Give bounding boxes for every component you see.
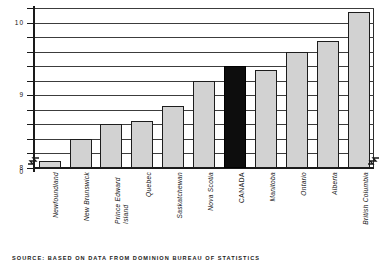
x-axis-category-label: Ontario <box>300 172 307 196</box>
x-axis-category-label: Prince Edward Island <box>114 172 129 224</box>
bar <box>348 12 370 168</box>
x-axis-labels: NewfoundlandNew BrunswickPrince Edward I… <box>34 172 374 252</box>
x-axis-category-label: Nova Scotia <box>207 172 214 211</box>
axis-break-left-icon <box>26 155 42 167</box>
x-axis-category-label: CANADA <box>238 172 245 203</box>
bar <box>286 52 308 168</box>
source-note: SOURCE: BASED ON DATA FROM DOMINION BURE… <box>12 255 260 261</box>
x-axis-category-label: Quebec <box>145 172 152 197</box>
bar <box>100 124 122 168</box>
x-axis-category-label: Manitoba <box>269 172 276 202</box>
bar <box>193 81 215 168</box>
x-axis-category-label: British Columbia <box>362 172 369 225</box>
bar <box>70 139 92 168</box>
y-axis-tick-label: 9 <box>2 91 24 98</box>
bar-chart: 10980 NewfoundlandNew BrunswickPrince Ed… <box>0 0 390 270</box>
x-axis-category-label: New Brunswick <box>83 172 90 221</box>
bar <box>39 161 61 168</box>
bars-container <box>34 8 374 168</box>
axis-break-right-icon <box>366 155 382 167</box>
x-axis-category-label: Alberta <box>331 172 338 195</box>
bar <box>255 70 277 168</box>
bar <box>162 106 184 168</box>
bar <box>317 41 339 168</box>
x-axis-category-label: Newfoundland <box>52 172 59 218</box>
y-axis-tick-label: 0 <box>2 168 24 175</box>
x-axis-category-label: Saskatchewan <box>176 172 183 219</box>
bar <box>131 121 153 168</box>
bar <box>224 66 246 168</box>
y-axis-tick-label: 10 <box>2 19 24 26</box>
